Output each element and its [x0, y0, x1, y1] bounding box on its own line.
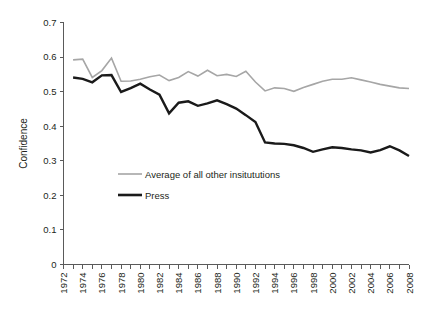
x-tick-label: 1972: [58, 273, 69, 294]
legend-label-press: Press: [145, 190, 170, 201]
x-tick-label: 2004: [365, 273, 376, 294]
x-tick-label: 1998: [308, 273, 319, 294]
x-tick-label: 1974: [77, 273, 88, 294]
x-tick-label: 1986: [192, 273, 203, 294]
series-line-press: [73, 75, 409, 156]
x-tick-label: 2006: [384, 273, 395, 294]
x-tick-label: 2008: [404, 273, 415, 294]
series-line-average: [73, 58, 409, 91]
x-tick-label: 1988: [212, 273, 223, 294]
x-tick-label: 1976: [96, 273, 107, 294]
x-tick-label: 1990: [231, 273, 242, 294]
x-tick-label: 1984: [173, 273, 184, 294]
y-tick-label: 0: [51, 259, 56, 270]
x-tick-label: 1980: [135, 273, 146, 294]
x-tick-label: 1992: [250, 273, 261, 294]
line-chart: 00.10.20.30.40.50.60.7197219741976197819…: [0, 0, 428, 315]
y-tick-label: 0.3: [43, 155, 56, 166]
y-axis-title: Confidence: [18, 118, 29, 169]
chart-figure: 00.10.20.30.40.50.60.7197219741976197819…: [0, 0, 428, 315]
y-tick-label: 0.7: [43, 17, 56, 28]
y-tick-label: 0.5: [43, 86, 56, 97]
x-tick-label: 2002: [346, 273, 357, 294]
y-tick-label: 0.2: [43, 190, 56, 201]
x-tick-label: 2000: [327, 273, 338, 294]
x-tick-label: 1978: [116, 273, 127, 294]
legend-label-average: Average of all other insitututions: [145, 169, 280, 180]
y-tick-label: 0.4: [43, 121, 56, 132]
x-tick-label: 1994: [269, 273, 280, 294]
x-tick-label: 1996: [288, 273, 299, 294]
y-tick-label: 0.1: [43, 224, 56, 235]
x-tick-label: 1982: [154, 273, 165, 294]
y-tick-label: 0.6: [43, 51, 56, 62]
